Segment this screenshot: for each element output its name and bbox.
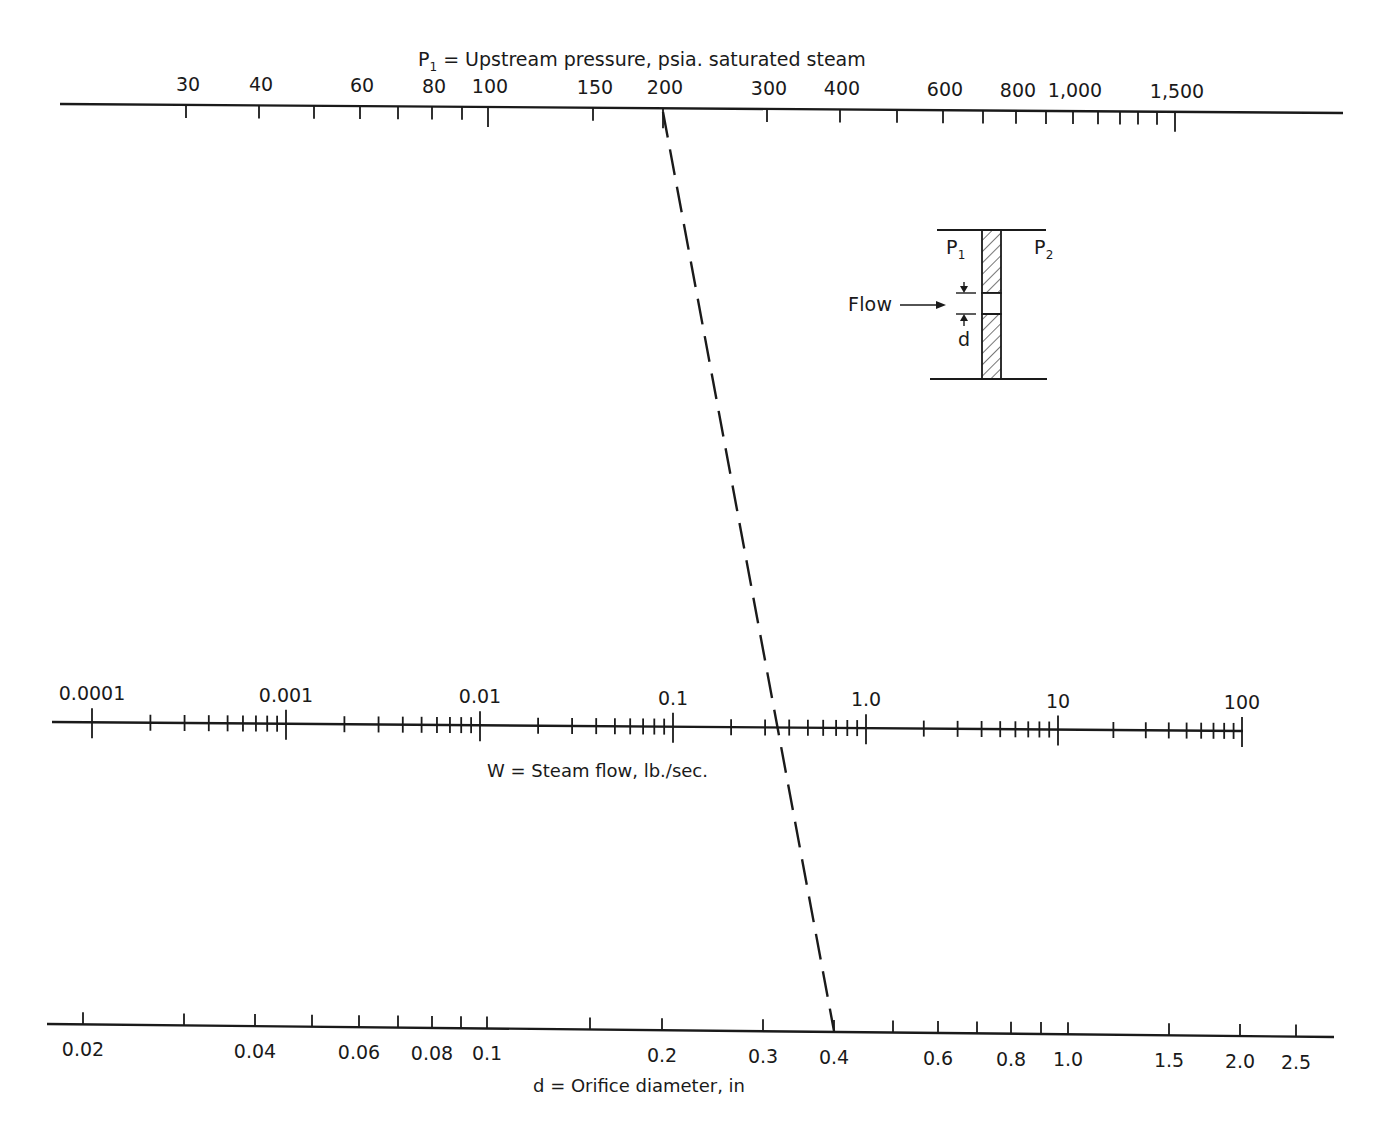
top-axis-tick-label: 100 <box>472 75 508 97</box>
middle-axis-tick-label: 100 <box>1224 691 1260 713</box>
bottom-axis-title: d = Orifice diameter, in <box>533 1075 745 1096</box>
top-axis-tick-label: 1,000 <box>1048 79 1102 101</box>
top-axis-tick-label: 800 <box>1000 79 1036 101</box>
top-axis-tick-label: 40 <box>249 73 273 95</box>
bottom-axis-tick-label: 2.5 <box>1281 1051 1311 1073</box>
middle-axis-tick-label: 0.001 <box>259 684 313 706</box>
top-axis-subscript: 1 <box>429 60 437 74</box>
top-axis-tick-label: 300 <box>751 77 787 99</box>
top-axis-tick-label: 80 <box>422 75 446 97</box>
inset-d-label: d <box>958 328 970 350</box>
bottom-axis-tick-label: 0.6 <box>923 1047 953 1069</box>
orifice-plate-lower <box>982 314 1001 379</box>
bottom-axis-tick-label: 0.8 <box>996 1048 1026 1070</box>
bottom-axis-tick-label: 0.06 <box>338 1041 380 1063</box>
bottom-axis-tick-label: 1.5 <box>1154 1049 1184 1071</box>
middle-axis-title: W = Steam flow, lb./sec. <box>487 760 708 781</box>
dimension-arrow-top-head <box>960 286 968 293</box>
orifice-opening <box>982 293 1001 314</box>
top-axis-symbol: P <box>418 48 429 70</box>
nomogram <box>0 0 1383 1134</box>
bottom-axis-line <box>47 1024 1334 1037</box>
bottom-axis-tick-label: 0.3 <box>748 1045 778 1067</box>
flow-arrow-head <box>936 301 946 309</box>
bottom-axis-tick-label: 0.1 <box>472 1042 502 1064</box>
bottom-axis-ticks <box>83 1012 1296 1036</box>
middle-axis-tick-label: 0.01 <box>459 685 501 707</box>
top-axis-tick-label: 150 <box>577 76 613 98</box>
top-axis-tick-label: 600 <box>927 78 963 100</box>
bottom-axis-tick-label: 0.08 <box>411 1042 453 1064</box>
inset-p2-label: P2 <box>1034 236 1054 258</box>
top-axis-tick-label: 60 <box>350 74 374 96</box>
top-axis-tick-label: 200 <box>647 76 683 98</box>
middle-axis-tick-label: 0.1 <box>658 687 688 709</box>
bottom-axis-tick-label: 0.4 <box>819 1046 849 1068</box>
example-isopleth-dashed-line <box>663 112 834 1031</box>
top-axis-tick-label: 30 <box>176 73 200 95</box>
top-axis-line <box>60 104 1343 113</box>
inset-p1-label: P1 <box>946 236 966 258</box>
bottom-axis-tick-label: 1.0 <box>1053 1048 1083 1070</box>
middle-axis-tick-label: 1.0 <box>851 688 881 710</box>
middle-axis-line <box>52 722 1243 731</box>
bottom-axis-tick-label: 0.04 <box>234 1040 276 1062</box>
bottom-axis-tick-label: 2.0 <box>1225 1050 1255 1072</box>
orifice-plate-upper <box>982 230 1001 293</box>
bottom-axis-tick-label: 0.02 <box>62 1038 104 1060</box>
middle-axis-tick-label: 0.0001 <box>59 682 125 704</box>
top-axis-title: P1 = Upstream pressure, psia. saturated … <box>418 48 866 70</box>
inset-flow-label: Flow <box>848 293 892 315</box>
middle-axis-tick-label: 10 <box>1046 690 1070 712</box>
orifice-inset-diagram <box>900 230 1047 379</box>
top-axis-title-text: = Upstream pressure, psia. saturated ste… <box>437 48 866 70</box>
dimension-arrow-bottom-head <box>960 314 968 321</box>
top-axis-tick-label: 1,500 <box>1150 80 1204 102</box>
top-axis-tick-label: 400 <box>824 77 860 99</box>
bottom-axis-tick-label: 0.2 <box>647 1044 677 1066</box>
